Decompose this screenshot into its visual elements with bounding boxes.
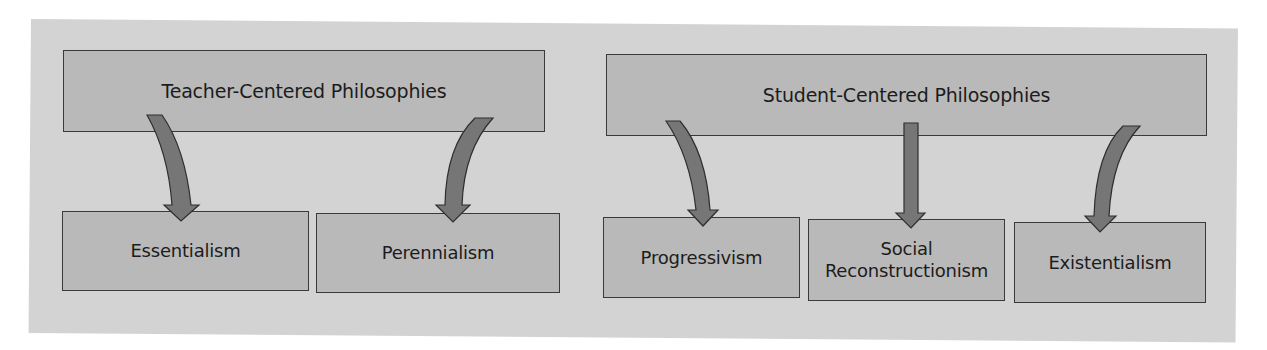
student-centered-philosophies-box: Student-Centered Philosophies [606, 54, 1207, 136]
progressivism-label: Progressivism [641, 247, 763, 269]
essentialism-box: Essentialism [62, 211, 309, 291]
existentialism-box: Existentialism [1014, 222, 1206, 303]
teacher-centered-philosophies-box: Teacher-Centered Philosophies [63, 50, 545, 132]
perennialism-label: Perennialism [382, 242, 495, 264]
perennialism-box: Perennialism [316, 213, 560, 293]
student-centered-label: Student-Centered Philosophies [763, 84, 1050, 106]
social-reconstructionism-box: Social Reconstructionism [808, 219, 1005, 301]
social-reconstructionism-label-line2: Reconstructionism [825, 260, 988, 282]
teacher-centered-label: Teacher-Centered Philosophies [161, 80, 446, 102]
essentialism-label: Essentialism [130, 240, 240, 262]
existentialism-label: Existentialism [1048, 252, 1171, 274]
progressivism-box: Progressivism [603, 217, 800, 298]
social-reconstructionism-label-line1: Social [880, 238, 932, 260]
